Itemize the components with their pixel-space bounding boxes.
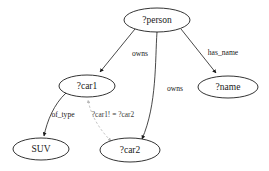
edge-label-owns-car1: owns	[132, 49, 148, 58]
edge-person-owns-car2: owns	[142, 32, 183, 139]
node-person-label: ?person	[142, 15, 172, 25]
graph-svg: owns owns has_name of_type ?car1! = ?car…	[0, 0, 269, 171]
edge-label-of-type: of_type	[51, 110, 75, 119]
node-car2-label: ?car2	[120, 145, 141, 155]
edge-label-has-name: has_name	[208, 48, 239, 57]
node-person[interactable]: ?person	[124, 8, 190, 32]
node-name[interactable]: ?name	[198, 76, 258, 98]
graph-canvas: owns owns has_name of_type ?car1! = ?car…	[0, 0, 269, 171]
node-car2[interactable]: ?car2	[100, 138, 160, 162]
node-car1-label: ?car1	[77, 81, 98, 91]
edge-person-has-name: has_name	[181, 29, 239, 73]
node-name-label: ?name	[216, 82, 241, 92]
edge-person-owns-car1: owns	[100, 29, 148, 72]
node-suv[interactable]: SUV	[13, 138, 69, 160]
edge-car1-of-type-suv: of_type	[44, 93, 75, 136]
edge-car1-notequal-car2-path	[88, 100, 111, 141]
node-suv-label: SUV	[31, 144, 50, 154]
edge-label-car1-notequal-car2: ?car1! = ?car2	[92, 110, 135, 119]
edge-person-owns-car1-path	[100, 29, 135, 72]
edge-car1-notequal-car2: ?car1! = ?car2	[88, 100, 134, 141]
node-car1[interactable]: ?car1	[59, 75, 115, 97]
edge-label-owns-car2: owns	[167, 84, 183, 93]
